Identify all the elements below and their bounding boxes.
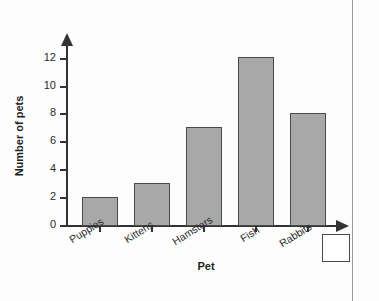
bar-fish (238, 57, 274, 226)
y-tick (60, 225, 67, 227)
bar-hamsters (186, 127, 222, 226)
x-axis-title: Pet (176, 260, 236, 272)
bar-kittens (134, 183, 170, 226)
y-tick-label: 8 (34, 107, 56, 118)
x-axis-arrowhead-icon (336, 220, 349, 232)
y-tick (60, 113, 67, 115)
y-tick (60, 141, 67, 143)
page-divider-rule (352, 0, 353, 301)
y-axis-title: Number of pets (13, 86, 25, 186)
y-tick-label: 0 (34, 219, 56, 230)
y-tick (60, 58, 67, 60)
worksheet-page: 0 2 4 6 8 10 12 Puppies Kittens Hamsters… (0, 0, 379, 301)
y-tick (60, 197, 67, 199)
y-axis-arrowhead-icon (61, 33, 73, 46)
y-tick-label: 6 (34, 135, 56, 146)
y-tick-label: 12 (34, 52, 56, 63)
answer-input-box[interactable] (322, 234, 350, 262)
bar-chart: 0 2 4 6 8 10 12 Puppies Kittens Hamsters… (0, 0, 352, 301)
y-tick (60, 169, 67, 171)
y-tick (60, 86, 67, 88)
y-tick-label: 4 (34, 163, 56, 174)
y-tick-label: 2 (34, 191, 56, 202)
y-tick-label: 10 (34, 80, 56, 91)
bar-rabbits (290, 113, 326, 226)
